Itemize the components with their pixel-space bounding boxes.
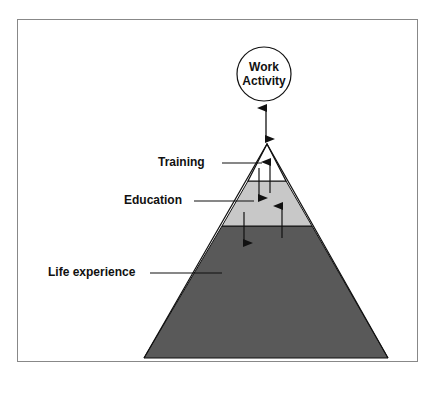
work-activity-label: Work Activity xyxy=(237,60,291,88)
education-label: Education xyxy=(124,193,182,207)
training-label: Training xyxy=(158,155,205,169)
life-experience-label: Life experience xyxy=(48,265,135,279)
pyramid-diagram xyxy=(0,0,434,396)
life-experience-layer xyxy=(144,226,388,358)
education-layer xyxy=(222,181,312,226)
